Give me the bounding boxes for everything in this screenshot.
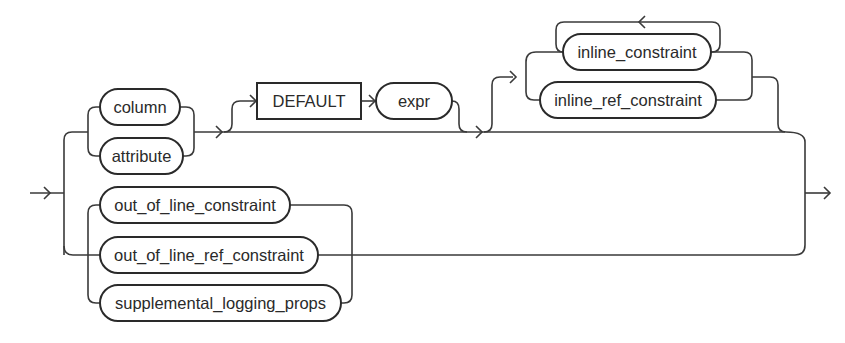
node-inline-constraint: inline_constraint [563, 34, 711, 70]
node-inline-ref-constraint: inline_ref_constraint [540, 82, 716, 118]
node-column: column [100, 89, 180, 125]
left-spine [64, 132, 88, 255]
svg-text:supplemental_logging_props: supplemental_logging_props [115, 294, 326, 313]
node-attribute: attribute [100, 138, 183, 174]
svg-text:expr: expr [398, 92, 431, 110]
svg-text:inline_constraint: inline_constraint [577, 43, 697, 62]
node-out-of-line-ref-constraint: out_of_line_ref_constraint [100, 237, 318, 273]
node-out-of-line-constraint: out_of_line_constraint [100, 187, 290, 223]
keyword-default: DEFAULT [257, 83, 361, 119]
svg-text:out_of_line_constraint: out_of_line_constraint [114, 196, 276, 215]
syntax-diagram: column attribute DEFAULT expr inline_con… [0, 0, 845, 343]
svg-text:column: column [113, 98, 166, 116]
svg-text:DEFAULT: DEFAULT [272, 92, 345, 110]
entry-arrow-icon [30, 187, 64, 199]
node-expr: expr [376, 83, 452, 119]
svg-text:attribute: attribute [112, 147, 172, 165]
svg-text:inline_ref_constraint: inline_ref_constraint [554, 91, 702, 110]
svg-text:out_of_line_ref_constraint: out_of_line_ref_constraint [114, 246, 304, 265]
node-supplemental-logging-props: supplemental_logging_props [100, 285, 341, 321]
